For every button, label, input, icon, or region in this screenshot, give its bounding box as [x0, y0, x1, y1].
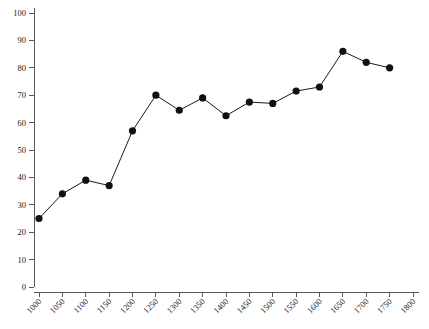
data-point-marker [246, 98, 253, 105]
x-tick-label: 1400 [211, 296, 230, 315]
data-point-marker [363, 59, 370, 66]
x-tick-label: 1300 [165, 296, 184, 315]
y-tick-label: 20 [18, 227, 27, 237]
data-point-marker [269, 100, 276, 107]
y-tick-label: 50 [18, 145, 27, 155]
data-point-marker [35, 215, 42, 222]
x-tick-label: 1000 [24, 296, 43, 315]
data-point-marker [59, 190, 66, 197]
data-point-marker [222, 112, 229, 119]
y-tick-label: 60 [18, 118, 27, 128]
data-point-marker [339, 48, 346, 55]
x-tick-label: 1050 [48, 296, 67, 315]
x-tick-label: 1450 [235, 296, 254, 315]
series-line [39, 51, 390, 218]
y-tick-label: 0 [22, 282, 26, 292]
x-tick-label: 1650 [328, 296, 347, 315]
x-axis: 1000105011001150120012501300135014001450… [24, 292, 419, 315]
y-tick-label: 70 [18, 90, 27, 100]
x-tick-label: 1750 [375, 296, 394, 315]
data-point-marker [293, 87, 300, 94]
x-tick-label: 1350 [188, 296, 207, 315]
y-tick-label: 100 [13, 8, 26, 18]
data-series-1 [35, 48, 393, 222]
data-point-marker [316, 83, 323, 90]
y-tick-label: 90 [18, 35, 27, 45]
data-point-marker [129, 127, 136, 134]
chart-container: 0102030405060708090100 10001050110011501… [0, 0, 429, 329]
x-tick-label: 1700 [352, 296, 371, 315]
x-tick-label: 1600 [305, 296, 324, 315]
data-point-marker [152, 92, 159, 99]
line-chart-plot: 0102030405060708090100 10001050110011501… [0, 0, 429, 329]
x-tick-label: 1500 [258, 296, 277, 315]
y-tick-label: 40 [18, 172, 27, 182]
x-tick-label: 1200 [118, 296, 137, 315]
x-tick-label: 1150 [95, 296, 114, 315]
x-tick-label: 1800 [398, 296, 417, 315]
data-point-marker [82, 177, 89, 184]
y-tick-label: 10 [18, 255, 27, 265]
y-axis: 0102030405060708090100 [13, 8, 34, 292]
data-point-marker [106, 182, 113, 189]
x-tick-label: 1550 [281, 296, 300, 315]
x-tick-label: 1250 [141, 296, 160, 315]
data-point-marker [386, 64, 393, 71]
data-point-marker [176, 107, 183, 114]
x-tick-label: 1100 [71, 296, 90, 315]
y-tick-label: 80 [18, 63, 27, 73]
y-tick-label: 30 [18, 200, 27, 210]
data-point-marker [199, 94, 206, 101]
